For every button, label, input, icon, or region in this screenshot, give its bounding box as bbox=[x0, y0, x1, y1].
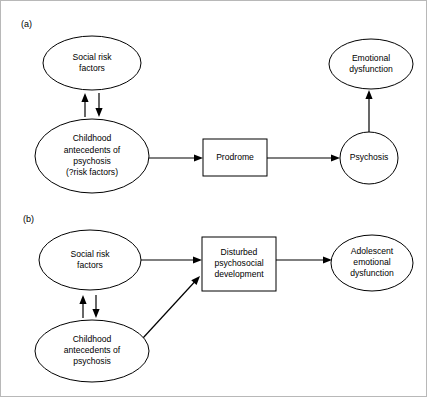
arrowhead-icon bbox=[193, 256, 202, 263]
node-label-line: factors bbox=[77, 260, 103, 270]
arrowhead-icon bbox=[95, 108, 102, 117]
panel-label: (a) bbox=[21, 19, 32, 29]
node-label-line: dysfunction bbox=[349, 64, 393, 74]
node-label-line: antecedents of bbox=[64, 145, 121, 155]
node-label-line: Disturbed bbox=[221, 247, 258, 257]
node-label-line: Social risk bbox=[70, 249, 110, 259]
arrow-childhood-to-prodrome bbox=[149, 154, 203, 161]
arrow-childhood-to-social-risk bbox=[79, 295, 86, 318]
social-risk-factors[interactable]: Social riskfactors bbox=[43, 36, 141, 90]
arrow-disturbed-development-to-adolescent-dysfunction bbox=[276, 256, 332, 263]
arrowhead-icon bbox=[81, 93, 88, 102]
connector-line bbox=[143, 282, 195, 338]
arrow-social-risk-to-childhood bbox=[95, 93, 102, 117]
arrowhead-icon bbox=[365, 90, 372, 99]
node-label-line: emotional bbox=[353, 257, 390, 267]
childhood-antecedents-of-psychosis[interactable]: Childhoodantecedents ofpsychosis(?risk f… bbox=[35, 119, 149, 193]
node-label-line: Childhood bbox=[73, 133, 112, 143]
node-label-line: Adolescent bbox=[351, 246, 394, 256]
social-risk-factors[interactable]: Social riskfactors bbox=[39, 230, 141, 290]
arrowhead-icon bbox=[79, 295, 86, 304]
node-label-line: dysfunction bbox=[350, 268, 394, 278]
psychosis[interactable]: Psychosis bbox=[340, 132, 398, 184]
node-label-line: Social risk bbox=[72, 52, 112, 62]
arrow-childhood-to-social-risk bbox=[81, 93, 88, 117]
node-label-line: psychosis bbox=[73, 356, 111, 366]
node-label-line: psychosocial bbox=[214, 258, 263, 268]
node-label-line: Prodrome bbox=[216, 152, 254, 162]
prodrome[interactable]: Prodrome bbox=[203, 139, 267, 176]
node-label-line: Psychosis bbox=[350, 152, 389, 162]
arrow-childhood-to-disturbed-development bbox=[143, 276, 200, 338]
adolescent-emotional-dysfunction[interactable]: Adolescentemotionaldysfunction bbox=[331, 235, 413, 291]
node-label-line: factors bbox=[79, 63, 105, 73]
arrow-social-risk-to-disturbed-development bbox=[141, 256, 202, 263]
arrow-psychosis-to-emotional-dysfunction bbox=[365, 90, 372, 132]
disturbed-psychosocial-development[interactable]: Disturbedpsychosocialdevelopment bbox=[202, 237, 276, 291]
panel-a: (a)Social riskfactorsChildhoodantecedent… bbox=[21, 19, 413, 193]
arrowhead-icon bbox=[194, 154, 203, 161]
panel-b: (b)Social riskfactorsChildhoodantecedent… bbox=[23, 214, 413, 382]
arrow-prodrome-to-psychosis bbox=[267, 154, 340, 161]
arrowhead-icon bbox=[331, 154, 340, 161]
node-label-line: Childhood bbox=[73, 334, 112, 344]
figure-container: (a)Social riskfactorsChildhoodantecedent… bbox=[0, 0, 427, 397]
diagram-canvas: (a)Social riskfactorsChildhoodantecedent… bbox=[1, 1, 427, 397]
node-label-line: Emotional bbox=[352, 53, 390, 63]
arrowhead-icon bbox=[92, 309, 99, 318]
panel-label: (b) bbox=[23, 214, 34, 224]
node-label-line: development bbox=[214, 269, 264, 279]
emotional-dysfunction[interactable]: Emotionaldysfunction bbox=[329, 39, 413, 89]
arrow-social-risk-to-childhood bbox=[92, 295, 99, 318]
node-label-line: (?risk factors) bbox=[66, 167, 118, 177]
childhood-antecedents-of-psychosis[interactable]: Childhoodantecedents ofpsychosis bbox=[35, 320, 149, 382]
node-label-line: antecedents of bbox=[64, 345, 121, 355]
node-label-line: psychosis bbox=[73, 156, 111, 166]
